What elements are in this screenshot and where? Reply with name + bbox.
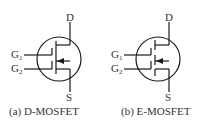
e-mosfet-drain-label: D [165, 12, 173, 23]
d-mosfet-gate2-label: G2 [11, 63, 22, 78]
d-mosfet-arrow-icon [57, 58, 64, 64]
d-mosfet-drain-label: D [66, 12, 74, 23]
d-mosfet-symbol [24, 22, 81, 92]
e-mosfet-symbol [124, 22, 180, 92]
e-mosfet-gate2-label: G2 [111, 63, 122, 78]
e-mosfet-caption: (b) E-MOSFET [121, 105, 190, 117]
e-mosfet-envelope-circle [136, 37, 180, 81]
d-mosfet-envelope-circle [37, 37, 81, 81]
e-mosfet-source-label: S [165, 92, 171, 103]
d-mosfet-caption: (a) D-MOSFET [9, 105, 79, 117]
e-mosfet-arrow-icon [156, 58, 163, 64]
d-mosfet-source-label: S [66, 92, 72, 103]
